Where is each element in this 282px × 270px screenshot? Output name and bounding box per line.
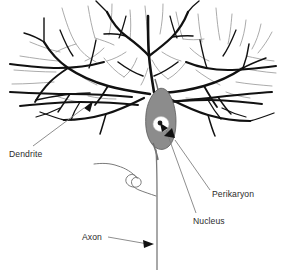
label-perikaryon: Perikaryon bbox=[212, 189, 254, 199]
neuron-diagram-figure: Dendrite Perikaryon Nucleus Axon bbox=[0, 0, 282, 270]
label-nucleus: Nucleus bbox=[193, 216, 225, 226]
label-axon: Axon bbox=[82, 232, 102, 242]
neuron-illustration: Dendrite Perikaryon Nucleus Axon bbox=[0, 0, 282, 270]
label-dendrite: Dendrite bbox=[9, 149, 42, 159]
